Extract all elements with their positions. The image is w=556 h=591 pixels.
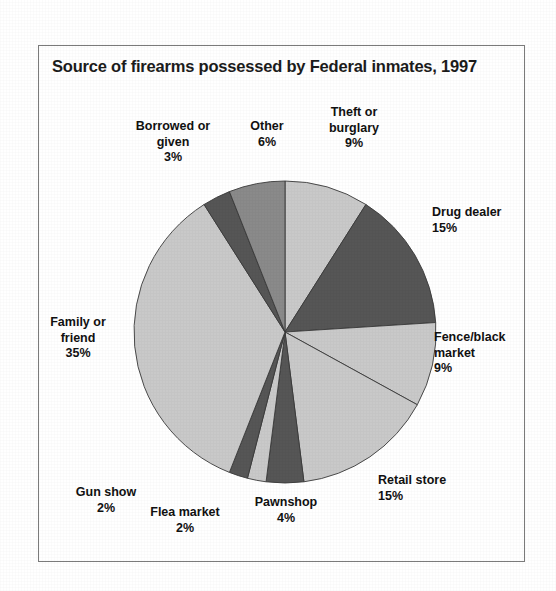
pie-label-family-or-friend-value: 35%: [28, 346, 128, 362]
pie-label-borrowed-or-given-name: Borrowed or: [118, 119, 228, 135]
chart-title: Source of firearms possessed by Federal …: [52, 57, 512, 76]
pie-chart-svg: [133, 180, 437, 484]
pie-label-retail-store: Retail store 15%: [378, 473, 488, 504]
pie-label-theft-or-burglary: Theft or burglary 9%: [304, 105, 404, 152]
pie-label-other-name: Other: [232, 119, 302, 135]
pie-label-gun-show-name: Gun show: [60, 485, 152, 501]
pie-label-drug-dealer: Drug dealer 15%: [432, 205, 542, 236]
pie-label-other: Other 6%: [232, 119, 302, 150]
pie-label-theft-or-burglary-name: Theft or: [304, 105, 404, 121]
pie-label-pawnshop: Pawnshop 4%: [244, 495, 328, 526]
pie-label-gun-show: Gun show 2%: [60, 485, 152, 516]
pie-label-borrowed-or-given: Borrowed or given 3%: [118, 119, 228, 166]
pie-label-borrowed-or-given-value: 3%: [118, 150, 228, 166]
pie-label-fence-black-market-name: Fence/black: [434, 330, 544, 346]
pie-label-retail-store-value: 15%: [378, 489, 488, 505]
pie-label-family-or-friend-name: Family or: [28, 315, 128, 331]
pie-chart: [133, 180, 437, 484]
pie-label-other-value: 6%: [232, 135, 302, 151]
pie-label-pawnshop-name: Pawnshop: [244, 495, 328, 511]
pie-label-theft-or-burglary-value: 9%: [304, 136, 404, 152]
figure-canvas: Source of firearms possessed by Federal …: [0, 0, 556, 591]
pie-label-pawnshop-value: 4%: [244, 511, 328, 527]
pie-label-flea-market-value: 2%: [135, 521, 235, 537]
pie-label-family-or-friend-name2: friend: [28, 331, 128, 347]
pie-label-gun-show-value: 2%: [60, 501, 152, 517]
pie-label-theft-or-burglary-name2: burglary: [304, 121, 404, 137]
pie-label-drug-dealer-name: Drug dealer: [432, 205, 542, 221]
pie-label-fence-black-market-name2: market: [434, 346, 544, 362]
pie-label-retail-store-name: Retail store: [378, 473, 488, 489]
pie-label-family-or-friend: Family or friend 35%: [28, 315, 128, 362]
pie-slice-group: [134, 181, 436, 483]
pie-label-borrowed-or-given-name2: given: [118, 135, 228, 151]
pie-label-fence-black-market-value: 9%: [434, 361, 544, 377]
pie-label-drug-dealer-value: 15%: [432, 221, 542, 237]
pie-label-fence-black-market: Fence/black market 9%: [434, 330, 544, 377]
